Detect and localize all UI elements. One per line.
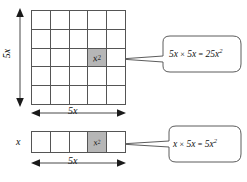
callout-2-result-exponent: 2 bbox=[214, 137, 217, 144]
label-big-square-height: 5x bbox=[1, 49, 12, 58]
grid-cell bbox=[32, 67, 51, 86]
grid-cell bbox=[70, 30, 89, 49]
grid-cell-shaded-x-squared: x2 bbox=[88, 49, 107, 68]
grid-cell bbox=[70, 67, 89, 86]
x-squared-label: x2 bbox=[87, 48, 107, 68]
grid-cell bbox=[32, 49, 51, 68]
multiplication-icon: × bbox=[180, 50, 185, 59]
grid-cell bbox=[51, 30, 70, 49]
grid-cell bbox=[70, 49, 89, 68]
grid-cell bbox=[107, 67, 126, 86]
callout-2-lhs: x bbox=[173, 139, 177, 149]
big-square-grid: x2 bbox=[31, 10, 126, 105]
label-bar-height: x bbox=[16, 136, 20, 147]
callout-1-result-exponent: 2 bbox=[219, 47, 222, 54]
callout-1-equals: = bbox=[199, 50, 204, 59]
x-squared-label: x2 bbox=[87, 131, 107, 153]
grid-cell bbox=[32, 30, 51, 49]
bar-strip: x2 bbox=[31, 131, 126, 153]
grid-cell bbox=[51, 67, 70, 86]
bar-cell bbox=[51, 132, 70, 153]
grid-cell bbox=[107, 11, 126, 30]
horizontal-dimension-arrow-bar-5x bbox=[31, 159, 126, 167]
callout-1-rhs: 5x bbox=[187, 49, 196, 59]
bar-cell bbox=[107, 132, 126, 153]
bar-cell bbox=[70, 132, 89, 153]
callout-1-lhs: 5x bbox=[169, 49, 178, 59]
callout-1-result: 25x bbox=[205, 49, 219, 59]
callout-equation-square: 5x × 5x = 25x2 bbox=[169, 49, 222, 59]
horizontal-dimension-arrow-grid-5x bbox=[31, 109, 126, 117]
vertical-dimension-arrow-5x bbox=[16, 8, 24, 107]
grid-cell bbox=[88, 11, 107, 30]
grid-cell bbox=[51, 11, 70, 30]
multiplication-icon: × bbox=[180, 140, 185, 149]
label-big-square-width: 5x bbox=[68, 105, 77, 116]
callout-2-equals: = bbox=[198, 140, 203, 149]
grid-cell bbox=[107, 49, 126, 68]
grid-cell bbox=[88, 67, 107, 86]
callout-2-result: 5x bbox=[205, 139, 214, 149]
grid-cell bbox=[88, 86, 107, 105]
grid-cell bbox=[107, 30, 126, 49]
grid-cell bbox=[32, 86, 51, 105]
bar-cell bbox=[32, 132, 51, 153]
grid-cell bbox=[51, 86, 70, 105]
callout-2-rhs: 5x bbox=[186, 139, 195, 149]
label-bar-width: 5x bbox=[68, 155, 77, 166]
callout-equation-bar: x × 5x = 5x2 bbox=[173, 139, 217, 149]
grid-cell bbox=[70, 86, 89, 105]
grid-cell bbox=[107, 86, 126, 105]
bar-cell-shaded-x-squared: x2 bbox=[88, 132, 107, 153]
grid-cell bbox=[51, 49, 70, 68]
diagram-canvas: x2 x2 5x 5x x 5x 5x × 5x = 25x2 x bbox=[0, 0, 247, 182]
grid-cell bbox=[88, 30, 107, 49]
grid-cell bbox=[70, 11, 89, 30]
grid-cell bbox=[32, 11, 51, 30]
